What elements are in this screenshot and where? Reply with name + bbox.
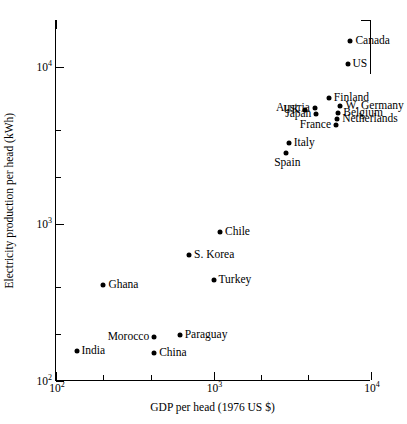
data-point-paraguay[interactable] bbox=[177, 333, 182, 338]
x-tick-minor-5 bbox=[308, 375, 309, 380]
data-point-label-ghana: Ghana bbox=[108, 279, 138, 291]
data-point-italy[interactable] bbox=[286, 140, 291, 145]
data-point-label-turkey: Turkey bbox=[219, 274, 252, 286]
data-point-turkey[interactable] bbox=[211, 278, 216, 283]
data-point-label-us: US bbox=[353, 58, 368, 70]
data-point-w-germany[interactable] bbox=[338, 103, 343, 108]
data-point-belgium[interactable] bbox=[336, 111, 341, 116]
x-tick-label-0: 102 bbox=[49, 383, 65, 395]
data-point-label-netherlands: Netherlands bbox=[342, 113, 398, 125]
y-tick-label-3: 103 bbox=[37, 219, 53, 231]
data-point-us[interactable] bbox=[345, 61, 350, 66]
x-tick-label-3: 103 bbox=[207, 383, 223, 395]
data-point-label-chile: Chile bbox=[225, 226, 250, 238]
data-point-morocco[interactable] bbox=[152, 335, 157, 340]
data-point-label-china: China bbox=[159, 348, 186, 360]
data-point-label-s-korea: S. Korea bbox=[194, 249, 234, 261]
scatter-plot-figure: 102103104 102103104 CanadaUSFinlandW. Ge… bbox=[0, 0, 407, 424]
y-tick-major-3: 103 bbox=[56, 224, 64, 225]
top-edge-tick-0 bbox=[56, 20, 57, 29]
x-tick-minor-4 bbox=[261, 375, 262, 380]
data-point-spain[interactable] bbox=[284, 150, 289, 155]
x-tick-minor-1 bbox=[103, 375, 104, 380]
data-point-japan[interactable] bbox=[314, 112, 319, 117]
plot-frame: 102103104 102103104 CanadaUSFinlandW. Ge… bbox=[55, 20, 370, 381]
data-point-austria[interactable] bbox=[312, 105, 317, 110]
data-point-ghana[interactable] bbox=[101, 282, 106, 287]
right-edge-tick-0 bbox=[361, 20, 370, 21]
x-tick-label-6: 104 bbox=[364, 383, 380, 395]
data-point-netherlands[interactable] bbox=[335, 116, 340, 121]
x-tick-minor-2 bbox=[151, 375, 152, 380]
y-tick-minor-2 bbox=[56, 287, 61, 288]
data-point-label-france: France bbox=[300, 119, 331, 131]
data-point-s-korea[interactable] bbox=[187, 252, 192, 257]
data-point-china[interactable] bbox=[152, 351, 157, 356]
y-tick-minor-4 bbox=[56, 177, 61, 178]
data-point-india[interactable] bbox=[74, 349, 79, 354]
data-point-finland[interactable] bbox=[326, 95, 331, 100]
y-tick-major-6: 104 bbox=[56, 67, 64, 68]
data-point-canada[interactable] bbox=[348, 38, 353, 43]
y-tick-minor-1 bbox=[56, 334, 61, 335]
data-point-france[interactable] bbox=[334, 122, 339, 127]
x-axis-title-text: GDP per head (1976 US $) bbox=[150, 401, 274, 413]
y-axis-title: Electricity production per head (kWh) bbox=[2, 20, 18, 381]
data-point-label-india: India bbox=[82, 345, 106, 357]
data-point-label-italy: Italy bbox=[294, 137, 315, 149]
data-point-label-canada: Canada bbox=[355, 35, 389, 47]
data-point-chile[interactable] bbox=[218, 230, 223, 235]
x-axis-title: GDP per head (1976 US $) bbox=[55, 402, 370, 414]
x-tick-major-0: 102 bbox=[56, 372, 57, 380]
data-point-label-paraguay: Paraguay bbox=[185, 330, 228, 342]
y-tick-label-6: 104 bbox=[37, 62, 53, 73]
x-tick-major-6: 104 bbox=[371, 372, 372, 380]
y-axis-title-text: Electricity production per head (kWh) bbox=[4, 113, 16, 289]
y-tick-minor-5 bbox=[56, 130, 61, 131]
x-tick-major-3: 103 bbox=[214, 372, 215, 380]
data-point-label-morocco: Morocco bbox=[108, 332, 150, 344]
right-frame-segment bbox=[370, 20, 371, 74]
data-point-label-spain: Spain bbox=[274, 157, 300, 169]
